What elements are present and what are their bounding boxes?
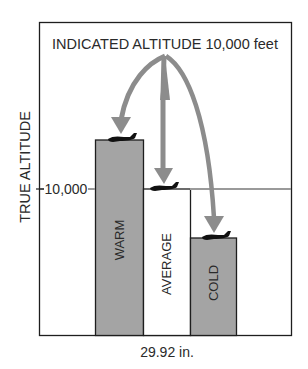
bar-label-warm: WARM	[112, 220, 127, 261]
reference-label: 10,000	[45, 181, 88, 197]
indicated-altitude-title: INDICATED ALTITUDE 10,000 feet	[52, 36, 278, 52]
x-axis-label: 29.92 in.	[140, 344, 194, 360]
bar-label-average: AVERAGE	[159, 233, 174, 295]
bar-label-cold: COLD	[206, 265, 221, 301]
altitude-temperature-diagram: INDICATED ALTITUDE 10,000 feet 10,000 TR…	[0, 0, 308, 369]
y-axis-label: TRUE ALTITUDE	[17, 111, 33, 223]
